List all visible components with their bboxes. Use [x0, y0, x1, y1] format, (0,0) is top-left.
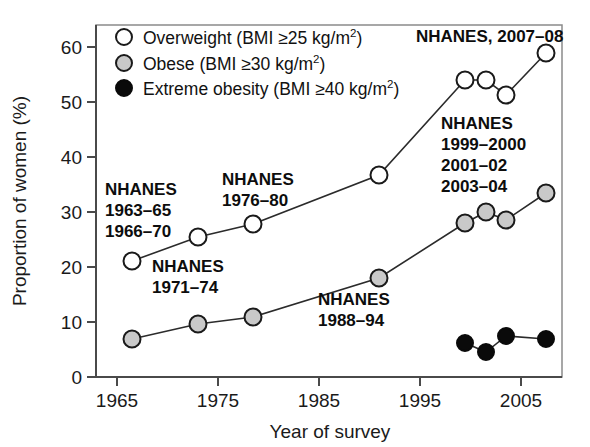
- point-extreme-2007-08: [538, 331, 554, 347]
- legend-label-obese: Obese (BMI ≥30 kg/m2): [143, 53, 325, 74]
- legend-label-extreme-obesity: Extreme obesity (BMI ≥40 kg/m2): [143, 78, 399, 99]
- point-overweight-1988-94: [371, 167, 388, 184]
- annotation-nhanes-2007-08: NHANES, 2007–08: [416, 27, 563, 46]
- annotation-nhanes-1963-70: NHANES 1963–65 1966–70: [105, 180, 177, 241]
- point-obese-1976-80: [245, 309, 262, 326]
- x-tick-label-1975: 1975: [197, 390, 239, 411]
- point-obese-1971-74: [190, 316, 207, 333]
- point-overweight-1971-74: [190, 229, 207, 246]
- annotation-1976-80-line2: 1976–80: [222, 191, 288, 210]
- legend-label-overweight: Overweight (BMI ≥25 kg/m2): [143, 27, 362, 48]
- point-overweight-1976-80: [245, 216, 262, 233]
- point-overweight-2001-02: [478, 72, 495, 89]
- chart-figure: 0 10 20 30 40 50 60 1965 1975 1985 1995 …: [0, 0, 590, 447]
- annotation-1999-2004-line1: NHANES: [441, 114, 513, 133]
- x-tick-label-1965: 1965: [96, 390, 138, 411]
- y-tick-label-50: 50: [61, 92, 82, 113]
- point-overweight-2003-04: [498, 87, 515, 104]
- point-obese-2003-04: [498, 212, 515, 229]
- y-tick-label-20: 20: [61, 257, 82, 278]
- annotation-1999-2004-line2: 1999–2000: [441, 135, 526, 154]
- point-obese-2001-02: [478, 204, 495, 221]
- annotation-1976-80-line1: NHANES: [222, 170, 294, 189]
- point-overweight-1999-2000: [457, 72, 474, 89]
- x-axis-ticks: [117, 377, 521, 386]
- x-axis-title: Year of survey: [270, 421, 391, 442]
- annotation-1971-74-line2: 1971–74: [152, 278, 219, 297]
- point-obese-1988-94: [371, 270, 388, 287]
- chart-svg: 0 10 20 30 40 50 60 1965 1975 1985 1995 …: [0, 0, 590, 447]
- annotation-1988-94-line2: 1988–94: [318, 311, 385, 330]
- legend-marker-overweight: [116, 29, 132, 45]
- point-obese-1999-2000: [457, 215, 474, 232]
- point-obese-1966-70: [124, 331, 141, 348]
- x-tick-label-1995: 1995: [399, 390, 441, 411]
- point-obese-2007-08: [538, 185, 555, 202]
- y-axis-tick-labels: 0 10 20 30 40 50 60: [61, 37, 82, 388]
- legend-marker-obese: [116, 55, 132, 71]
- y-tick-label-30: 30: [61, 202, 82, 223]
- point-extreme-1999-2000: [457, 335, 473, 351]
- y-tick-label-0: 0: [71, 367, 82, 388]
- x-tick-label-2005: 2005: [500, 390, 542, 411]
- annotation-1999-2004-line4: 2003–04: [441, 177, 508, 196]
- y-axis-title: Proportion of women (%): [9, 96, 30, 306]
- point-overweight-1966-70: [124, 253, 141, 270]
- y-tick-label-60: 60: [61, 37, 82, 58]
- y-axis-ticks: [87, 47, 96, 377]
- y-tick-label-40: 40: [61, 147, 82, 168]
- annotation-1971-74-line1: NHANES: [152, 257, 224, 276]
- point-overweight-2007-08: [538, 45, 555, 62]
- annotation-1963-70-line3: 1966–70: [105, 222, 171, 241]
- y-tick-label-10: 10: [61, 312, 82, 333]
- annotation-1988-94-line1: NHANES: [318, 290, 390, 309]
- annotation-1963-70-line1: NHANES: [105, 180, 177, 199]
- annotation-1963-70-line2: 1963–65: [105, 201, 171, 220]
- x-axis-tick-labels: 1965 1975 1985 1995 2005: [96, 390, 542, 411]
- point-extreme-2003-04: [498, 328, 514, 344]
- x-tick-label-1985: 1985: [298, 390, 340, 411]
- annotation-1999-2004-line3: 2001–02: [441, 156, 507, 175]
- legend-marker-extreme-obesity: [116, 80, 132, 96]
- point-extreme-2001-02: [478, 344, 494, 360]
